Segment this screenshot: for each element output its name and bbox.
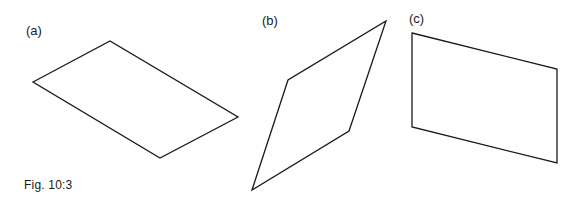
- figure-caption: Fig. 10:3: [24, 178, 73, 192]
- parallelogram-a: [33, 41, 238, 158]
- panel-label-c: (c): [409, 12, 424, 25]
- parallelogram-b: [252, 21, 386, 190]
- panel-label-b: (b): [262, 14, 278, 27]
- parallelogram-c: [412, 33, 557, 163]
- panel-label-a: (a): [26, 24, 42, 37]
- figure-canvas: [0, 0, 580, 204]
